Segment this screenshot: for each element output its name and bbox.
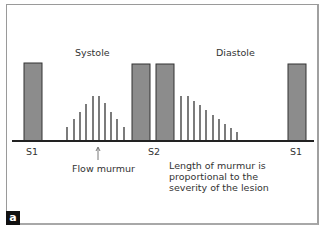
systole-label: Systole [75,47,110,58]
heart-sound-bar-s1 [288,64,306,141]
diastole-label: Diastole [216,47,255,58]
heart-sound-bar-s2 [156,64,174,141]
s1-right-label: S1 [290,146,302,157]
s2-label: S2 [148,146,160,157]
phonocardiogram [0,0,324,233]
severity-note: Length of murmur is proportional to the … [169,160,269,193]
heart-sound-bar-s2 [132,64,150,141]
panel-label-badge: a [6,211,20,225]
heart-sound-bar-s1 [24,63,42,141]
flow-murmur-label: Flow murmur [72,163,135,174]
s1-left-label: S1 [26,146,38,157]
